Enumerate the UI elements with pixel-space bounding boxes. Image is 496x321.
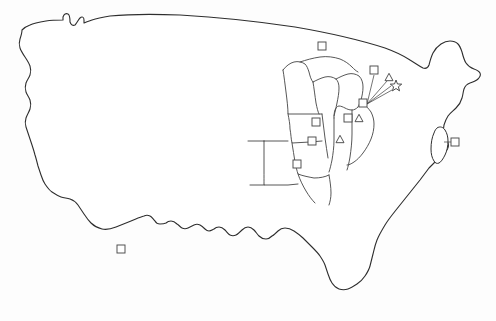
square-marker-icon[interactable] xyxy=(308,137,316,145)
map-figure: United States outline map with study-sit… xyxy=(0,0,496,321)
us-national-boundary xyxy=(19,14,480,290)
square-marker-icon[interactable] xyxy=(370,66,378,74)
square-marker-icon[interactable] xyxy=(312,118,320,126)
square-marker-icon[interactable] xyxy=(293,160,301,168)
square-marker-icon[interactable] xyxy=(451,138,459,146)
square-marker-icon[interactable] xyxy=(318,42,326,50)
square-marker-icon[interactable] xyxy=(344,114,352,122)
square-marker-icon[interactable] xyxy=(117,245,125,253)
square-marker-icon[interactable] xyxy=(359,99,367,107)
us-outline-map xyxy=(0,0,496,321)
